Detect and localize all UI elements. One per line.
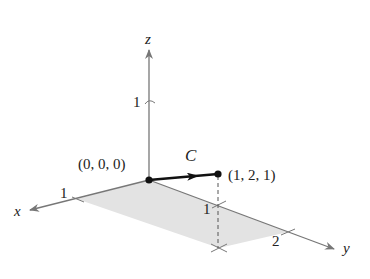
y-axis-label: y (343, 241, 350, 256)
x-tick-label-1: 1 (60, 186, 68, 201)
x-axis-label: x (14, 204, 21, 219)
diagram-canvas: z 1 x 1 y 1 2 C (0, 0, 0) (1, 2, 1) (0, 0, 370, 279)
start-point (145, 176, 152, 183)
z-tick-label-1: 1 (133, 95, 141, 110)
y-tick-label-1: 1 (203, 202, 211, 217)
diagram-svg (0, 0, 370, 279)
end-point (214, 170, 221, 177)
start-point-label: (0, 0, 0) (78, 157, 126, 172)
end-point-label: (1, 2, 1) (228, 168, 276, 183)
z-tick-1 (145, 101, 155, 104)
curve-c (149, 174, 218, 180)
curve-label: C (185, 147, 196, 164)
y-tick-label-2: 2 (272, 234, 280, 249)
z-axis-label: z (145, 32, 151, 47)
